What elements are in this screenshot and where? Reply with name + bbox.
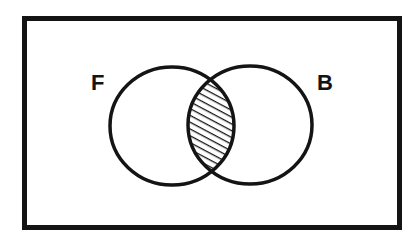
set-f-label: F <box>91 70 104 95</box>
set-b-label: B <box>317 70 333 95</box>
venn-diagram: F B <box>0 0 417 239</box>
